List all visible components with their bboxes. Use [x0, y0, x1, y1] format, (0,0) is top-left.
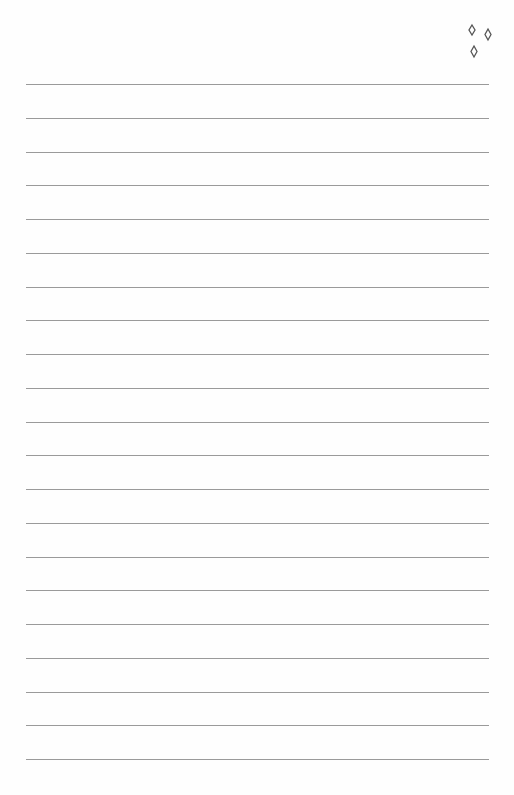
ruled-line	[26, 118, 489, 119]
ruled-line	[26, 185, 489, 186]
ruled-line	[26, 84, 489, 85]
ruled-lines	[26, 0, 490, 795]
ruled-line	[26, 590, 489, 591]
ruled-line	[26, 253, 489, 254]
ruled-line	[26, 557, 489, 558]
ruled-line	[26, 658, 489, 659]
ruled-line	[26, 388, 489, 389]
ruled-line	[26, 523, 489, 524]
ruled-line	[26, 219, 489, 220]
ruled-line	[26, 759, 489, 760]
ruled-line	[26, 354, 489, 355]
notebook-page	[0, 0, 514, 795]
ruled-line	[26, 287, 489, 288]
ruled-line	[26, 152, 489, 153]
ruled-line	[26, 725, 489, 726]
ruled-line	[26, 422, 489, 423]
ruled-line	[26, 455, 489, 456]
ruled-line	[26, 489, 489, 490]
ruled-line	[26, 692, 489, 693]
ruled-line	[26, 624, 489, 625]
ruled-line	[26, 320, 489, 321]
